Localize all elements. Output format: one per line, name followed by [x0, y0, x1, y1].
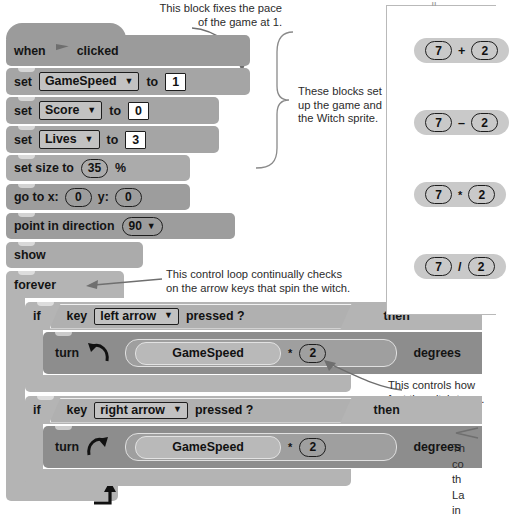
- x-input[interactable]: 0: [65, 188, 92, 207]
- percent-label: %: [115, 161, 126, 175]
- then-label: then: [374, 403, 400, 417]
- operand-b-right[interactable]: 2: [299, 438, 326, 457]
- notch: [55, 331, 72, 336]
- point-direction-label: point in direction: [14, 219, 115, 233]
- operand-a[interactable]: 7: [425, 257, 452, 276]
- block-point-in-direction[interactable]: point in direction 90 ▼: [6, 213, 235, 239]
- operator-symbol: *: [458, 189, 462, 201]
- pressed-label: pressed ?: [195, 403, 254, 417]
- panel-top-cropped-text: ll: [398, 0, 482, 6]
- operand-a[interactable]: 7: [425, 185, 452, 204]
- block-set-size[interactable]: set size to 35 %: [6, 155, 190, 181]
- annotation-bottom-right-cut: Th co th La in: [452, 441, 492, 518]
- set-label: set: [14, 133, 32, 147]
- notch: [55, 425, 72, 430]
- if-label: if: [33, 309, 41, 323]
- operand-b[interactable]: 2: [471, 41, 498, 60]
- notch: [18, 67, 35, 72]
- block-set-lives[interactable]: set Lives ▼ to 3: [6, 126, 219, 153]
- variable-dropdown-score[interactable]: Score ▼: [39, 101, 102, 120]
- notch: [18, 96, 35, 101]
- block-set-score[interactable]: set Score ▼ to 0: [6, 97, 219, 124]
- reporter-gamespeed-left[interactable]: GameSpeed: [135, 342, 281, 365]
- operator-multiply-right[interactable]: GameSpeed * 2: [125, 433, 397, 461]
- block-turn-right[interactable]: turn GameSpeed * 2 degrees: [43, 426, 482, 468]
- block-set-gamespeed[interactable]: set GameSpeed ▼ to 1: [6, 68, 250, 95]
- chevron-down-icon: ▼: [147, 221, 156, 231]
- size-input[interactable]: 35: [81, 159, 108, 178]
- key-value: left arrow: [100, 309, 156, 323]
- operand-b[interactable]: 2: [468, 185, 495, 204]
- reporter-gamespeed-right[interactable]: GameSpeed: [135, 436, 281, 459]
- key-value: right arrow: [100, 403, 165, 417]
- show-label: show: [14, 248, 46, 262]
- if-right-foot: [25, 469, 351, 486]
- if-right-header[interactable]: if key right arrow ▼ pressed ? then: [25, 396, 482, 424]
- operator-multiply-left[interactable]: GameSpeed * 2: [125, 339, 397, 367]
- block-go-to-xy[interactable]: go to x: 0 y: 0: [6, 184, 190, 210]
- to-label: to: [107, 133, 119, 147]
- block-turn-left[interactable]: turn GameSpeed * 2 degrees: [43, 332, 482, 374]
- notch: [37, 395, 54, 400]
- predicate-key-right-pressed[interactable]: key right arrow ▼ pressed ?: [50, 398, 352, 423]
- operand-b[interactable]: 2: [471, 113, 498, 132]
- direction-dropdown[interactable]: 90 ▼: [122, 217, 163, 236]
- y-label: y:: [98, 190, 109, 204]
- turn-counterclockwise-icon: [85, 341, 111, 365]
- when-label: when: [14, 44, 46, 58]
- set-size-label: set size to: [14, 161, 74, 175]
- direction-value: 90: [129, 219, 142, 233]
- to-label: to: [146, 75, 158, 89]
- variable-dropdown-gamespeed[interactable]: GameSpeed ▼: [39, 72, 140, 91]
- variable-dropdown-lives[interactable]: Lives ▼: [39, 130, 100, 149]
- key-dropdown-right[interactable]: right arrow ▼: [94, 402, 188, 419]
- block-show[interactable]: show: [6, 242, 143, 268]
- operand-b-left[interactable]: 2: [299, 344, 326, 363]
- turn-clockwise-icon: [85, 435, 111, 459]
- clicked-label: clicked: [77, 44, 119, 58]
- notch: [18, 125, 35, 130]
- forever-label: forever: [14, 278, 56, 292]
- key-label: key: [67, 403, 88, 417]
- math-block-multiply[interactable]: 7 * 2: [414, 182, 506, 207]
- block-when-flag-clicked[interactable]: when clicked: [6, 35, 250, 66]
- turn-label: turn: [55, 346, 79, 360]
- if-label: if: [33, 403, 41, 417]
- value-input-lives[interactable]: 3: [125, 131, 146, 149]
- set-label: set: [14, 104, 32, 118]
- operand-a[interactable]: 7: [425, 41, 452, 60]
- if-left-spine: [25, 330, 43, 375]
- green-flag-icon: [56, 44, 69, 57]
- forever-header[interactable]: forever: [6, 271, 124, 298]
- multiply-symbol: *: [288, 347, 292, 359]
- variable-name: GameSpeed: [45, 74, 117, 88]
- chevron-down-icon: ▼: [85, 135, 94, 144]
- operator-symbol: –: [458, 116, 465, 130]
- notch: [18, 270, 35, 275]
- if-left-foot: [25, 375, 351, 392]
- operand-b[interactable]: 2: [468, 257, 495, 276]
- to-label: to: [109, 104, 121, 118]
- if-right-spine: [25, 424, 43, 469]
- notch: [18, 212, 35, 217]
- value-input-gamespeed[interactable]: 1: [165, 73, 186, 91]
- y-input[interactable]: 0: [115, 188, 142, 207]
- notch: [37, 301, 54, 306]
- multiply-symbol: *: [288, 441, 292, 453]
- degrees-label-left: degrees: [413, 346, 461, 360]
- key-dropdown-left[interactable]: left arrow ▼: [94, 308, 179, 325]
- predicate-key-left-pressed[interactable]: key left arrow ▼ pressed ?: [50, 304, 352, 329]
- operator-symbol: +: [458, 44, 465, 58]
- operand-a[interactable]: 7: [425, 113, 452, 132]
- chevron-down-icon: ▼: [173, 405, 182, 414]
- pressed-label: pressed ?: [186, 309, 245, 323]
- variable-name: Lives: [45, 132, 77, 146]
- set-label: set: [14, 75, 32, 89]
- turn-label: turn: [55, 440, 79, 454]
- math-block-divide[interactable]: 7 / 2: [414, 254, 506, 279]
- value-input-score[interactable]: 0: [128, 102, 149, 120]
- notch: [18, 241, 35, 246]
- math-block-subtract[interactable]: 7 – 2: [414, 110, 509, 135]
- notch: [18, 154, 35, 159]
- math-block-add[interactable]: 7 + 2: [414, 38, 509, 63]
